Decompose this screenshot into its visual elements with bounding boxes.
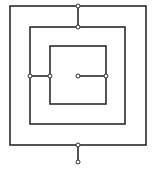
spiral-coil-diagram [0, 0, 155, 172]
node-inner-left [48, 74, 52, 78]
node-middle-top [76, 25, 80, 29]
bottom-terminal [76, 160, 80, 164]
center-terminal [76, 74, 80, 78]
node-inner-right [104, 74, 108, 78]
node-outer-bottom [76, 143, 80, 147]
node-outer-top [76, 4, 80, 8]
node-middle-left [28, 74, 32, 78]
